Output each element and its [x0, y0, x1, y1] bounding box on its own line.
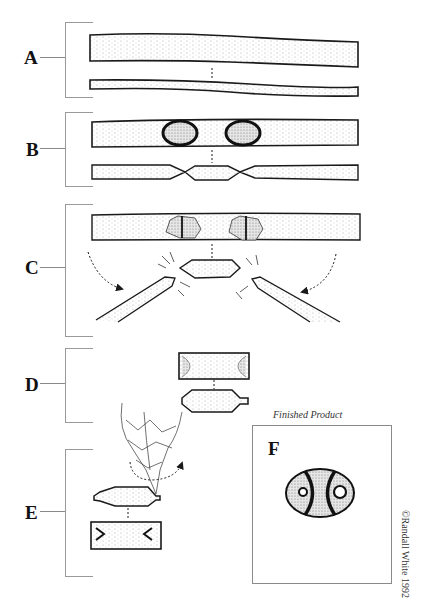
illustration — [0, 0, 428, 615]
finished-bead — [286, 469, 354, 517]
step-a-tube — [90, 34, 358, 96]
flint-tool — [121, 403, 182, 494]
